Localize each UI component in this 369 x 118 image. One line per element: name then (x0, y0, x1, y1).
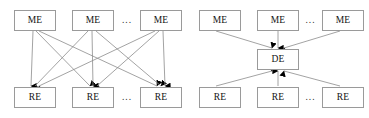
edge-rre3-de (284, 71, 340, 86)
edge-rre1-de (216, 71, 272, 86)
node-label: ME (213, 16, 228, 26)
edge-me2-re1 (35, 31, 88, 86)
edge-me3-re2 (97, 31, 159, 86)
node-label: ME (154, 16, 169, 26)
node-re-left-1[interactable]: RE (14, 87, 56, 108)
edge-rme3-de (284, 31, 340, 48)
node-label: ME (336, 16, 351, 26)
edge-me1-re3 (39, 31, 157, 86)
edge-me3-re1 (39, 31, 155, 86)
ellipsis-top-right: ... (300, 10, 321, 31)
node-label: RE (337, 93, 350, 103)
node-me-left-1[interactable]: ME (14, 10, 56, 31)
node-label: RE (214, 93, 227, 103)
ellipsis-bottom-right: ... (300, 87, 321, 108)
node-re-right-3[interactable]: RE (322, 87, 364, 108)
node-label: RE (87, 93, 100, 103)
node-re-left-2[interactable]: RE (72, 87, 114, 108)
node-re-left-3[interactable]: RE (140, 87, 182, 108)
edge-me1-re2 (36, 31, 90, 86)
node-label: DE (271, 55, 284, 65)
node-me-right-2[interactable]: ME (257, 10, 299, 31)
left-panel-edges (31, 31, 165, 86)
ellipsis-top-left: ... (116, 10, 138, 31)
ellipsis-bottom-left: ... (116, 87, 138, 108)
node-label: RE (272, 93, 285, 103)
diagram-canvas: ME ME ... ME RE RE ... RE ME ME ... ME D… (0, 0, 369, 118)
node-me-left-2[interactable]: ME (72, 10, 114, 31)
node-re-right-1[interactable]: RE (199, 87, 241, 108)
node-label: ME (271, 16, 286, 26)
edge-me2-re2 (92, 31, 93, 86)
edge-rme1-de (216, 31, 272, 48)
node-label: RE (155, 93, 168, 103)
node-re-right-2[interactable]: RE (257, 87, 299, 108)
node-label: RE (29, 93, 42, 103)
node-me-left-3[interactable]: ME (140, 10, 182, 31)
node-me-right-3[interactable]: ME (322, 10, 364, 31)
edge-me2-re3 (96, 31, 161, 86)
node-label: ME (28, 16, 43, 26)
node-label: ME (86, 16, 101, 26)
edge-me3-re3 (163, 31, 165, 86)
node-me-right-1[interactable]: ME (199, 10, 241, 31)
node-de-hub[interactable]: DE (257, 49, 299, 70)
edge-me1-re1 (31, 31, 33, 86)
